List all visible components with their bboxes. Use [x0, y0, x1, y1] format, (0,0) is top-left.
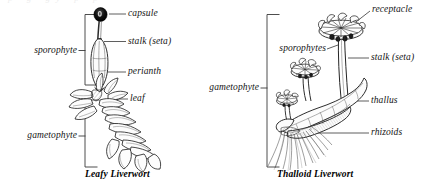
leafy-gametophyte-shape: [69, 73, 161, 172]
label-gametophyte-left: gametophyte: [0, 130, 77, 141]
seta-shape: [98, 21, 99, 39]
label-receptacle: receptacle: [372, 4, 412, 15]
label-thallus: thallus: [371, 95, 398, 106]
label-leaf: leaf: [130, 93, 145, 104]
label-capsule: capsule: [128, 8, 158, 19]
label-sporophytes: sporophytes: [265, 43, 326, 54]
label-stalk-seta-left: stalk (seta): [128, 36, 171, 47]
liverwort-figure: p g gy p p: [0, 0, 426, 188]
caption-thalloid-liverwort: Thalloid Liverwort: [277, 169, 353, 180]
caption-leafy-liverwort: Leafy Liverwort: [85, 169, 150, 180]
label-rhizoids: rhizoids: [371, 127, 402, 138]
label-stalk-seta-right: stalk (seta): [371, 52, 414, 63]
label-sporophyte-left: sporophyte: [6, 45, 77, 56]
thalloid-liverwort-drawing: [268, 13, 367, 171]
leader-sporophytes: [327, 45, 338, 49]
figure-artwork: [0, 0, 426, 188]
leafy-liverwort-drawing: [69, 8, 161, 172]
label-perianth: perianth: [128, 66, 161, 77]
rhizoids-shape: [268, 127, 332, 170]
receptacle-large: [318, 13, 365, 98]
label-gametophyte-right: gametophyte: [185, 82, 259, 93]
bracket-gametophyte-right: [261, 15, 279, 168]
